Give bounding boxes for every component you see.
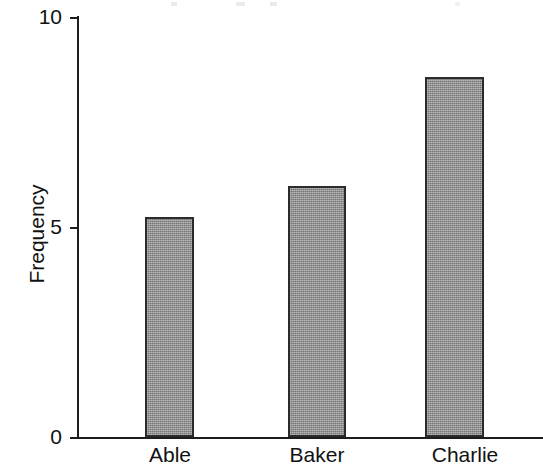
scan-artifact xyxy=(171,2,177,6)
y-axis-title: Frequency xyxy=(25,154,49,314)
bar-chart: 10 5 0 Frequency Able Baker Charlie xyxy=(0,0,543,471)
y-tick-mark-10 xyxy=(70,17,77,19)
x-category-label-charlie: Charlie xyxy=(405,444,525,465)
x-category-label-baker: Baker xyxy=(267,444,367,465)
bar-charlie xyxy=(425,77,484,437)
x-axis-line xyxy=(77,437,543,439)
y-tick-label-10: 10 xyxy=(16,6,62,27)
y-axis-line xyxy=(77,16,79,439)
y-tick-label-0: 0 xyxy=(16,426,62,447)
scan-artifact xyxy=(236,2,245,6)
scan-artifact xyxy=(270,2,277,6)
scan-artifact xyxy=(455,2,460,6)
y-tick-mark-0 xyxy=(70,437,77,439)
bar-able xyxy=(145,217,194,437)
x-category-label-able: Able xyxy=(120,444,220,465)
bar-baker xyxy=(288,186,346,437)
y-tick-mark-5 xyxy=(70,227,77,229)
